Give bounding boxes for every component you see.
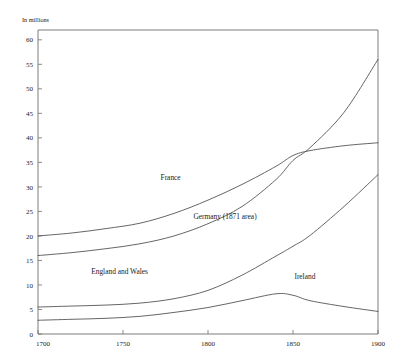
y-axis-tick-label: 45: [26, 110, 34, 118]
y-axis-tick-label: 30: [26, 184, 34, 192]
y-axis-tick-group: 051015202530354045505560: [26, 36, 42, 338]
x-axis-tick-group: 17001750180018501900: [36, 330, 386, 348]
x-axis-tick-label: 1850: [286, 340, 301, 348]
y-axis-tick-label: 15: [26, 257, 34, 265]
series-inline-label: France: [161, 173, 182, 182]
y-axis-tick-label: 55: [26, 61, 34, 69]
series-label-group: FranceGermany (1871 area)England and Wal…: [91, 173, 315, 282]
x-axis-tick-label: 1750: [116, 340, 131, 348]
y-axis-tick-label: 50: [26, 85, 34, 93]
y-axis-tick-label: 40: [26, 134, 34, 142]
series-inline-label: Germany (1871 area): [193, 212, 257, 221]
y-axis-tick-label: 0: [30, 331, 34, 339]
y-axis-tick-label: 5: [30, 306, 34, 314]
x-axis-tick-label: 1800: [201, 340, 216, 348]
y-axis-tick-label: 35: [26, 159, 34, 167]
plot-frame: [38, 30, 378, 334]
series-curve: [38, 175, 378, 307]
x-axis-tick-label: 1900: [371, 340, 386, 348]
series-inline-label: Ireland: [294, 272, 315, 281]
series-inline-label: England and Wales: [91, 267, 148, 276]
y-axis-tick-label: 25: [26, 208, 34, 216]
y-axis-unit-label: In millions: [22, 16, 50, 23]
series-curve: [38, 59, 378, 255]
x-axis-tick-label: 1700: [36, 340, 51, 348]
y-axis-tick-label: 20: [26, 233, 34, 241]
y-axis-tick-label: 10: [26, 282, 34, 290]
y-axis-tick-label: 60: [26, 36, 34, 44]
chart-canvas: In millions 051015202530354045505560 170…: [0, 0, 405, 359]
series-curve: [38, 293, 378, 320]
series-curve-group: [38, 59, 378, 320]
population-line-chart: In millions 051015202530354045505560 170…: [0, 0, 405, 359]
